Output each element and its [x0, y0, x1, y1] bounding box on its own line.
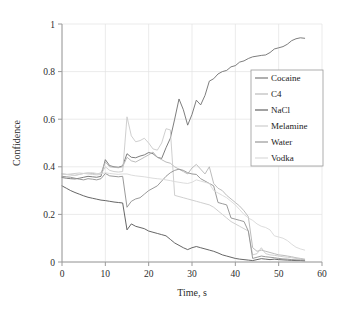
y-tick-label: 1: [50, 20, 55, 30]
y-tick-label: 0.8: [43, 67, 55, 77]
legend-label: Water: [271, 137, 292, 147]
legend-label: C4: [271, 89, 282, 99]
y-tick-label: 0.2: [43, 210, 55, 220]
y-tick-label: 0.6: [43, 115, 55, 125]
x-tick-label: 0: [60, 269, 65, 279]
legend-box: [251, 70, 323, 166]
y-tick-label: 0: [50, 258, 55, 268]
x-tick-label: 30: [187, 269, 197, 279]
chart-legend[interactable]: CocaineC4NaClMelamineWaterVodka: [251, 70, 323, 166]
legend-label: NaCl: [271, 105, 290, 115]
x-tick-label: 40: [231, 269, 241, 279]
confidence-vs-time-line-chart: 0102030405060 00.20.40.60.81 Time, s Con…: [0, 0, 341, 310]
chart-figure: 0102030405060 00.20.40.60.81 Time, s Con…: [0, 0, 341, 310]
x-axis-label: Time, s: [177, 287, 207, 298]
y-axis-label: Confidence: [11, 119, 22, 166]
x-tick-label: 50: [274, 269, 284, 279]
x-tick-label: 10: [101, 269, 111, 279]
y-tick-label: 0.4: [43, 162, 55, 172]
legend-label: Vodka: [271, 153, 294, 163]
x-tick-label: 60: [317, 269, 327, 279]
legend-label: Melamine: [271, 121, 308, 131]
legend-label: Cocaine: [271, 73, 301, 83]
x-tick-label: 20: [144, 269, 154, 279]
